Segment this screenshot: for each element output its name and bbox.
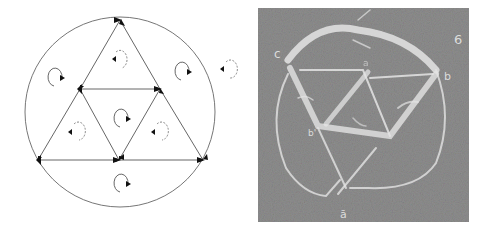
rotation-markers [48,50,237,192]
svg-text:a: a [363,58,369,68]
svg-text:b: b [444,70,451,83]
chalkboard-photo: c a b 6 b' ā [258,8,469,222]
rotation-icon-upper-right [175,62,189,80]
vertex-arrow-markers [36,17,208,165]
rotation-icon-upper-left [48,68,62,86]
svg-text:b': b' [308,128,316,138]
rotation-icon-left-dashed [74,122,85,140]
rotation-icon-center [114,109,128,127]
triangle-edges [38,20,203,160]
svg-text:c: c [274,47,281,61]
rotation-icon-top-dashed [116,50,127,68]
triangle-circle-diagram [0,0,245,230]
svg-text:ā: ā [340,208,347,221]
outer-circle [25,17,215,207]
rotation-icon-outside-dashed [226,60,237,78]
rotation-icon-right-dashed [157,122,168,140]
rotation-icon-bottom [114,174,128,192]
svg-text:6: 6 [454,32,462,47]
